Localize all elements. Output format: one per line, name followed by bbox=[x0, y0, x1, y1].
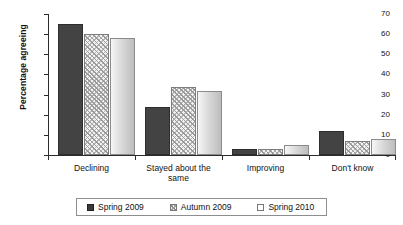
legend-item-autumn-2009: Autumn 2009 bbox=[170, 202, 232, 212]
bar-declining-autumn-2009 bbox=[84, 34, 109, 155]
x-category-label-line1: Don't know bbox=[309, 163, 396, 173]
x-category-label-line1: Declining bbox=[48, 163, 135, 173]
legend-label: Autumn 2009 bbox=[181, 202, 232, 212]
bar-dontknow-autumn-2009 bbox=[345, 141, 370, 155]
y-tick-mark bbox=[44, 14, 48, 15]
x-category-label-stayed-about-the-same: Stayed about the same bbox=[135, 163, 222, 183]
y-axis-title: Percentage agreeing bbox=[18, 2, 28, 132]
legend-swatch-icon bbox=[170, 204, 177, 211]
x-axis-separator bbox=[135, 155, 136, 160]
bar-declining-spring-2009 bbox=[58, 24, 83, 155]
bar-stayed-autumn-2009 bbox=[171, 87, 196, 155]
chart-legend: Spring 2009 Autumn 2009 Spring 2010 bbox=[76, 198, 327, 216]
legend-item-spring-2009: Spring 2009 bbox=[87, 202, 144, 212]
x-category-label-declining: Declining bbox=[48, 163, 135, 173]
legend-swatch-icon bbox=[87, 204, 94, 211]
plot-area: 70 60 50 40 30 20 10 0 bbox=[48, 14, 396, 155]
legend-item-spring-2010: Spring 2010 bbox=[257, 202, 314, 212]
x-category-label-line1: Stayed about the bbox=[135, 163, 222, 173]
x-category-label-line2: same bbox=[135, 173, 222, 183]
x-axis-separator bbox=[222, 155, 223, 160]
x-axis-separator bbox=[309, 155, 310, 160]
y-tick-label: 60 bbox=[381, 30, 390, 38]
y-tick-mark bbox=[44, 54, 48, 55]
legend-label: Spring 2010 bbox=[268, 202, 314, 212]
legend-swatch-icon bbox=[257, 204, 264, 211]
x-category-label-line1: Improving bbox=[222, 163, 309, 173]
bar-declining-spring-2010 bbox=[110, 38, 135, 155]
bar-dontknow-spring-2010 bbox=[371, 139, 396, 155]
legend-label: Spring 2009 bbox=[98, 202, 144, 212]
bar-dontknow-spring-2009 bbox=[319, 131, 344, 155]
bar-stayed-spring-2009 bbox=[145, 107, 170, 155]
y-tick-mark bbox=[44, 115, 48, 116]
y-tick-label: 40 bbox=[381, 70, 390, 78]
y-axis-line bbox=[48, 14, 49, 155]
x-axis-separator bbox=[395, 155, 396, 160]
y-tick-label: 10 bbox=[381, 131, 390, 139]
y-tick-mark bbox=[44, 135, 48, 136]
y-tick-mark bbox=[44, 34, 48, 35]
bar-improving-spring-2009 bbox=[232, 149, 257, 155]
y-tick-mark bbox=[44, 95, 48, 96]
y-tick-label: 20 bbox=[381, 111, 390, 119]
bar-chart: Percentage agreeing 70 60 50 40 30 20 10… bbox=[0, 0, 403, 225]
y-tick-label: 70 bbox=[381, 10, 390, 18]
y-tick-mark bbox=[44, 74, 48, 75]
x-category-label-dont-know: Don't know bbox=[309, 163, 396, 173]
x-category-label-improving: Improving bbox=[222, 163, 309, 173]
y-tick-label: 50 bbox=[381, 50, 390, 58]
bar-improving-autumn-2009 bbox=[258, 149, 283, 155]
bar-improving-spring-2010 bbox=[284, 145, 309, 155]
y-tick-label: 30 bbox=[381, 91, 390, 99]
x-axis-separator bbox=[48, 155, 49, 160]
bar-stayed-spring-2010 bbox=[197, 91, 222, 155]
